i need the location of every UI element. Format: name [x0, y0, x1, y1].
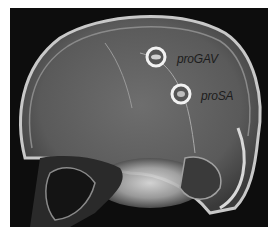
skull-xray-image: proGAV proSA	[10, 8, 268, 227]
valve-label-progav: proGAV	[177, 52, 218, 66]
valve-label-prosa: proSA	[201, 89, 233, 103]
skull-xray-drawing	[10, 8, 268, 227]
valve-progav-icon	[147, 48, 165, 66]
valve-prosa-icon	[172, 85, 190, 103]
